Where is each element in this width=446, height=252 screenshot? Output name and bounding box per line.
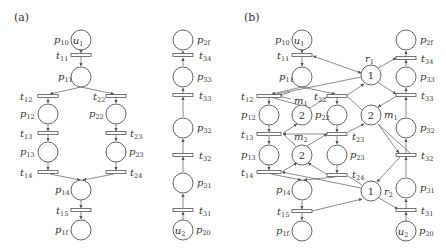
label-p1f: p1f [55,224,69,237]
label-t33: t33 [199,90,211,103]
label-t32-b: t32 [421,150,433,163]
transition-t31: t31 [173,205,211,218]
label-p13: p13 [20,146,35,159]
panel-a-label: (a) [14,11,29,24]
label-t22: t22 [93,91,105,104]
place-p22: p22 [89,104,126,124]
place-p12: p12 [20,104,58,124]
place-p31: p31 [173,173,212,193]
label-p10: p10 [54,34,69,47]
panel-a: (a) u1 p10 p11 [14,11,212,240]
label-t14: t14 [20,167,32,180]
label-p12-b: p12 [241,109,256,122]
transition-t15: t15 [56,205,91,218]
transition-t24: t24 [106,167,142,180]
label-r2: r2 [384,186,393,199]
label-t14-b: t14 [241,167,253,180]
petri-net-figure: (a) u1 p10 p11 [0,0,446,252]
label-t34-b: t34 [421,53,433,66]
transition-t32: t32 [173,150,211,163]
place-p14: p14 [55,180,91,200]
place-p32: p32 [173,118,212,138]
label-t31: t31 [199,205,211,218]
place-p10: u1 p10 [54,30,91,50]
place-p11: p11 [58,67,91,87]
token-count-m1-left: 2 [299,110,305,121]
place-p23: p23 [106,142,144,162]
place-p2f: p2f [173,30,211,50]
label-r1: r1 [365,53,374,66]
place-p13: p13 [20,142,58,162]
place-p20-b: u2 p20 [396,221,434,241]
transition-t14: t14 [20,167,58,180]
transition-t33: t33 [173,90,211,103]
place-p33: p33 [173,67,212,87]
label-p22: p22 [89,108,104,121]
place-p14-b: p14 [276,180,312,200]
place-p20: u2 p20 [173,220,211,240]
transition-t13-b: t13 [241,129,281,142]
token-count-m1-right: 2 [368,110,374,121]
place-p13-b: p13 [241,145,279,165]
label-p20: p20 [196,224,211,237]
place-p32-b: p32 [396,118,435,138]
place-p31-b: p31 [396,178,435,198]
token-count-r2: 1 [368,186,374,197]
label-t34: t34 [199,50,211,63]
label-p14-b: p14 [276,184,291,197]
place-p23-b: p23 [327,145,365,165]
transition-t13: t13 [20,128,58,141]
label-t13-b: t13 [241,129,253,142]
panel-b: (b) [241,11,435,241]
resource-m1-left: 2 m1 [292,95,312,125]
label-t11-b: t11 [277,50,289,63]
label-m2: m2 [294,131,308,144]
transition-t11: t11 [56,50,91,63]
label-p33-b: p33 [420,71,435,84]
place-p12-b: p12 [241,105,279,125]
place-p22-b: p22 [315,105,347,125]
transition-t31-b: t31 [396,205,433,218]
label-p32-b: p32 [420,122,435,135]
label-t12-b: t12 [241,91,253,104]
transition-t24-b: t24 [327,169,364,182]
label-p31: p31 [197,177,212,190]
label-p12: p12 [20,108,35,121]
label-p14: p14 [55,184,70,197]
resource-m2: 2 m2 [292,131,312,165]
label-t31-b: t31 [421,205,433,218]
label-p31-b: p31 [420,182,435,195]
transition-t11-b: t11 [277,50,312,63]
label-p32: p32 [197,122,212,135]
transition-t33-b: t33 [396,90,433,103]
transition-t32-b: t32 [396,150,433,163]
resource-m1-right: 2 m1 [361,105,398,125]
panel-b-label: (b) [244,11,260,24]
resource-r2: 1 r2 [361,181,393,201]
place-p2f-b: p2f [396,30,434,50]
resource-r1: 1 r1 [361,53,381,85]
label-p2f: p2f [197,34,211,47]
place-p1f: p1f [55,220,91,240]
label-p33: p33 [197,71,212,84]
transition-t14-b: t14 [241,167,281,180]
transition-t34-b: t34 [396,53,433,66]
transition-t15-b: t15 [277,206,312,219]
label-t13: t13 [20,128,32,141]
token-count-r1: 1 [368,70,374,81]
label-t32: t32 [199,150,211,163]
label-p23-b: p23 [350,149,365,162]
label-t15: t15 [56,205,68,218]
label-p2f-b: p2f [420,34,434,47]
label-p23: p23 [129,146,144,159]
token-count-m2: 2 [299,150,305,161]
label-t22-b: t22 [314,91,326,104]
place-p1f-b: p1f [276,221,312,241]
label-p1f-b: p1f [276,225,290,238]
label-t11: t11 [56,50,68,63]
label-p20-b: p20 [419,225,434,238]
label-t12: t12 [20,91,32,104]
place-p10-b: u1 p10 [275,30,312,50]
label-m1-right: m1 [384,109,398,122]
place-p11-b: p11 [279,67,312,87]
